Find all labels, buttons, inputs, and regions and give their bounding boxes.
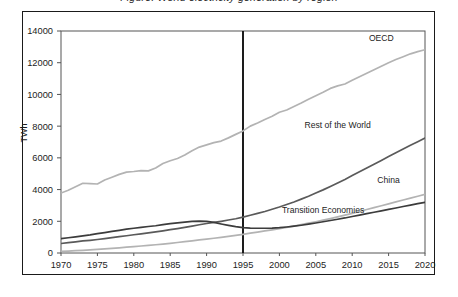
series-label-rest-of-the-world: Rest of the World (305, 120, 371, 130)
y-tick-label: 2000 (32, 217, 53, 227)
y-tick-label: 10000 (27, 90, 53, 100)
x-tick-label: 1980 (123, 260, 144, 270)
series-label-oecd: OECD (369, 33, 394, 43)
y-tick-label: 4000 (32, 185, 53, 195)
x-tick-label: 1995 (233, 260, 254, 270)
x-tick-label: 2010 (342, 260, 363, 270)
y-tick-label: 8000 (32, 122, 53, 132)
x-tick-label: 1975 (87, 260, 108, 270)
y-tick-label: 0 (48, 248, 53, 258)
y-tick-label: 6000 (32, 153, 53, 163)
y-tick-label: 12000 (27, 58, 53, 68)
line-chart: 0200040006000800010000120001400019701975… (0, 0, 458, 297)
x-tick-label: 2015 (378, 260, 399, 270)
x-tick-label: 2005 (305, 260, 326, 270)
series-label-china: China (377, 175, 400, 185)
y-tick-label: 14000 (27, 26, 53, 36)
series-label-transition-economies: Transition Economies (282, 205, 364, 215)
x-tick-label: 1970 (51, 260, 72, 270)
x-tick-label: 1990 (196, 260, 217, 270)
x-tick-label: 1985 (160, 260, 181, 270)
x-tick-label: 2000 (269, 260, 290, 270)
x-tick-label: 2020 (415, 260, 436, 270)
figure-container: Figure: World electricity generation by … (0, 0, 458, 297)
